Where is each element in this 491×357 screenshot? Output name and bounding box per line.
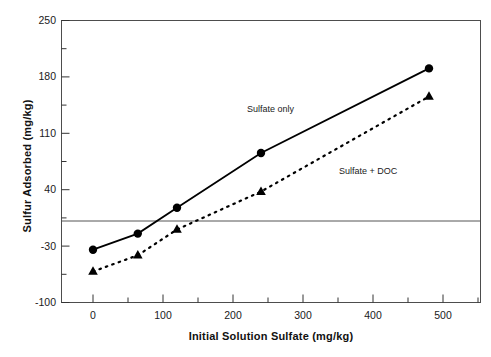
x-axis-title: Initial Solution Sulfate (mg/kg) [61,330,481,342]
x-tick-label-200: 200 [213,309,253,321]
y-tick-label-minus100: -100 [16,296,56,308]
series-sulfate-only-line [93,68,429,249]
y-minor-ticks [62,49,67,275]
x-tick-label-0: 0 [73,309,113,321]
chart-figure: 250 180 110 40 -30 -100 0 100 200 300 40… [0,0,491,357]
y-tick-label-250: 250 [16,14,56,26]
series-annotation-sulfate-doc: Sulfate + DOC [339,166,397,176]
y-axis-title: Sulfur Adsorbed (mg/kg) [21,51,33,281]
x-tick-label-500: 500 [423,309,463,321]
x-tick-label-400: 400 [353,309,393,321]
series-annotation-sulfate-only: Sulfate only [247,104,294,114]
series-sulfate-doc-markers [88,91,434,274]
x-tick-label-100: 100 [143,309,183,321]
x-tick-label-300: 300 [283,309,323,321]
series-sulfate-doc-line [93,97,429,272]
chart-canvas [0,0,491,357]
